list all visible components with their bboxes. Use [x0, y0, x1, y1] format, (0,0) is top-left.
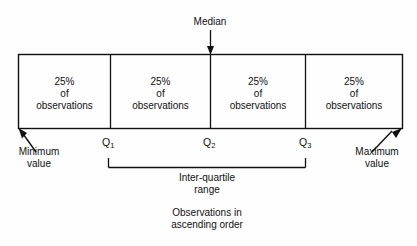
box-cell-1-percent: 25%	[19, 76, 110, 88]
median-label: Median	[185, 16, 235, 28]
box-cell-2: 25% of observations	[111, 76, 210, 112]
box-cell-4-unit: observations	[306, 100, 402, 112]
quartile-q1-symbol: Q	[102, 136, 110, 148]
quartile-q2-symbol: Q	[203, 136, 211, 148]
box-cell-2-percent: 25%	[111, 76, 210, 88]
iqr-label-line1: Inter-quartile	[152, 172, 262, 184]
caption-line1: Observations in	[152, 207, 262, 219]
box-cell-1-unit: observations	[19, 100, 110, 112]
box-cell-3-of: of	[211, 88, 305, 100]
caption-line2: ascending order	[152, 219, 262, 231]
box-cell-3-percent: 25%	[211, 76, 305, 88]
box-cell-2-unit: observations	[111, 100, 210, 112]
box-cell-3: 25% of observations	[211, 76, 305, 112]
quartile-label-q3: Q3	[299, 136, 311, 148]
quartile-label-q2: Q2	[203, 136, 215, 148]
box-cell-1-of: of	[19, 88, 110, 100]
iqr-label-line2: range	[152, 184, 262, 196]
box-cell-1: 25% of observations	[19, 76, 110, 112]
minimum-value-label: Minimum value	[8, 146, 70, 169]
maximum-value-label-line2: value	[345, 158, 409, 170]
quartile-q3-subscript: 3	[307, 141, 311, 150]
quartile-q2-subscript: 2	[211, 141, 215, 150]
box-cell-4: 25% of observations	[306, 76, 402, 112]
maximum-arrow-head	[392, 128, 402, 138]
ascending-order-caption: Observations in ascending order	[152, 207, 262, 230]
quartile-diagram: Median 25% of observations 25% of observ…	[0, 0, 417, 246]
maximum-value-label: Maximum value	[345, 146, 409, 169]
quartile-q3-symbol: Q	[299, 136, 307, 148]
box-cell-2-of: of	[111, 88, 210, 100]
quartile-q1-subscript: 1	[110, 141, 114, 150]
median-arrow-head	[207, 46, 214, 55]
box-cell-3-unit: observations	[211, 100, 305, 112]
box-cell-4-of: of	[306, 88, 402, 100]
box-cell-4-percent: 25%	[306, 76, 402, 88]
maximum-value-label-line1: Maximum	[345, 146, 409, 158]
inter-quartile-range-label: Inter-quartile range	[152, 172, 262, 195]
quartile-label-q1: Q1	[102, 136, 114, 148]
minimum-value-label-line1: Minimum	[8, 146, 70, 158]
minimum-value-label-line2: value	[8, 158, 70, 170]
